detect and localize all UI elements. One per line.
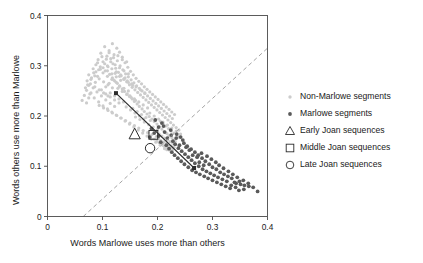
data-point	[146, 106, 149, 109]
data-point	[256, 189, 260, 193]
legend-item-0[interactable]: Non-Marlowe segments	[283, 88, 421, 105]
data-point	[147, 101, 150, 104]
data-point	[153, 106, 156, 109]
data-point	[216, 175, 220, 179]
data-point	[173, 153, 177, 157]
data-point	[118, 66, 121, 69]
data-point	[110, 110, 113, 113]
data-point	[157, 117, 160, 120]
data-point	[169, 121, 172, 124]
data-point	[122, 69, 125, 72]
data-point	[234, 185, 238, 189]
data-point	[170, 150, 174, 154]
data-point	[205, 154, 209, 158]
data-point	[166, 123, 169, 126]
data-point	[116, 87, 119, 90]
data-point	[149, 97, 152, 100]
data-point	[222, 172, 226, 176]
data-point	[99, 65, 102, 68]
y-tick-label: 0.2	[30, 111, 42, 121]
data-point	[139, 93, 142, 96]
data-point	[221, 177, 225, 181]
x-tick-label: 0.4	[262, 222, 274, 232]
data-point	[145, 112, 148, 115]
data-point	[164, 143, 168, 147]
data-point	[200, 156, 204, 160]
data-point	[226, 174, 230, 178]
legend-item-3[interactable]: Middle Joan sequences	[283, 139, 421, 156]
data-point	[195, 155, 199, 159]
data-point	[183, 152, 187, 156]
data-point	[188, 148, 192, 152]
data-point	[100, 94, 103, 97]
data-point	[141, 131, 144, 134]
data-point	[114, 67, 117, 70]
data-point	[143, 91, 146, 94]
data-point	[109, 102, 112, 105]
data-point	[152, 99, 155, 102]
data-point	[106, 94, 109, 97]
y-tick-label: 0.1	[30, 161, 42, 171]
data-point	[115, 81, 118, 84]
data-point	[190, 158, 194, 162]
data-point	[230, 176, 234, 180]
data-point	[111, 42, 114, 45]
data-point	[148, 111, 151, 114]
data-point	[180, 149, 184, 153]
data-point	[114, 72, 117, 75]
data-point	[109, 57, 112, 60]
data-point	[154, 95, 157, 98]
data-point	[84, 86, 87, 89]
data-point	[165, 105, 168, 108]
x-axis-label: Words Marlowe uses more than others	[0, 238, 295, 248]
data-point	[198, 172, 202, 176]
data-point	[98, 88, 101, 91]
data-point	[131, 84, 134, 87]
data-point	[101, 71, 104, 74]
data-point	[154, 102, 157, 105]
legend-item-4[interactable]: Late Joan sequences	[283, 156, 421, 173]
legend-item-1[interactable]: Marlowe segments	[283, 105, 421, 122]
data-point	[197, 160, 201, 164]
data-point	[159, 100, 162, 103]
data-point	[94, 81, 97, 84]
data-point	[231, 172, 235, 176]
data-point	[110, 72, 113, 75]
data-point	[149, 119, 152, 122]
data-point	[118, 75, 121, 78]
data-point	[153, 114, 156, 117]
data-point	[116, 54, 119, 57]
data-point	[167, 147, 171, 151]
data-point	[184, 145, 188, 149]
legend-item-2[interactable]: Early Joan sequences	[283, 122, 421, 139]
data-point	[191, 153, 195, 157]
data-point	[109, 91, 112, 94]
data-point	[113, 105, 116, 108]
data-point	[243, 183, 247, 187]
data-point	[103, 45, 106, 48]
data-point	[127, 89, 130, 92]
data-point	[206, 176, 210, 180]
data-point	[97, 58, 100, 61]
data-point	[167, 108, 170, 111]
data-point	[104, 98, 107, 101]
data-point	[103, 62, 106, 65]
data-point	[148, 135, 152, 139]
data-point	[211, 165, 215, 169]
data-point	[173, 113, 176, 116]
y-axis-label: Words others use more than Marlowe	[11, 55, 21, 205]
data-point	[132, 73, 135, 76]
data-point	[89, 82, 92, 85]
data-point	[134, 77, 137, 80]
data-point	[186, 155, 190, 159]
data-point	[179, 132, 182, 135]
data-point	[115, 75, 118, 78]
data-point	[150, 103, 153, 106]
data-point	[215, 180, 219, 184]
data-point	[212, 173, 216, 177]
data-point	[97, 68, 100, 71]
x-tick-label: 0	[45, 222, 50, 232]
data-point	[175, 132, 179, 136]
data-point	[96, 61, 99, 64]
data-point	[106, 83, 109, 86]
